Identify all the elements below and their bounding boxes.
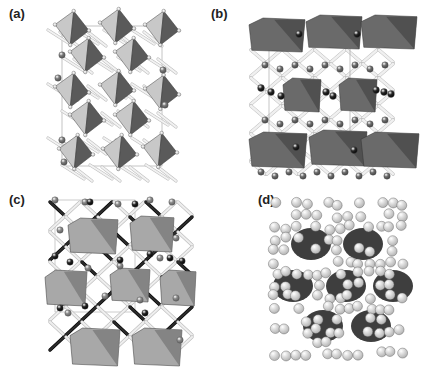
- panel-c: (c): [0, 188, 211, 377]
- crystal-structure-c: [0, 188, 211, 377]
- crystal-structure-d: [211, 188, 422, 377]
- panel-d: (d): [211, 188, 422, 377]
- panel-a: (a): [0, 0, 211, 188]
- crystal-structure-a: [0, 0, 211, 188]
- crystal-structure-b: [211, 0, 422, 188]
- panel-b: (b): [211, 0, 422, 188]
